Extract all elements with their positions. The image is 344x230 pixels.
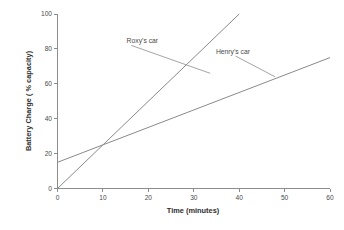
y-tick-label-80: 80 [45, 45, 53, 52]
y-tick-label-40: 40 [45, 115, 53, 122]
y-tick-label-60: 60 [45, 80, 53, 87]
x-axis-tick-labels: 0 10 20 30 40 50 60 [56, 194, 334, 201]
y-tick-label-0: 0 [48, 185, 52, 192]
x-tick-label-10: 10 [99, 194, 107, 201]
x-tick-label-0: 0 [56, 194, 60, 201]
battery-charge-line-chart: 0 20 40 60 80 100 0 10 20 30 40 50 60 [0, 0, 344, 230]
x-tick-label-30: 30 [190, 194, 198, 201]
y-axis-ticks [54, 14, 58, 189]
series-label-henrys-car: Henry's car [216, 48, 251, 56]
series-line-henrys-car [58, 58, 331, 163]
x-tick-label-50: 50 [281, 194, 289, 201]
x-axis-title: Time (minutes) [167, 206, 220, 215]
x-axis-ticks [58, 189, 331, 193]
y-axis-tick-labels: 0 20 40 60 80 100 [41, 10, 52, 192]
leader-line-henrys-car [236, 56, 276, 77]
x-tick-label-20: 20 [145, 194, 153, 201]
series-label-roxys-car: Roxy's car [127, 37, 159, 45]
x-tick-label-60: 60 [326, 194, 334, 201]
y-tick-label-20: 20 [45, 150, 53, 157]
y-tick-label-100: 100 [41, 10, 52, 17]
y-axis-title: Battery Charge ( % capacity) [24, 50, 33, 151]
chart-canvas: 0 20 40 60 80 100 0 10 20 30 40 50 60 [0, 0, 344, 230]
x-tick-label-40: 40 [236, 194, 244, 201]
leader-line-roxys-car [131, 45, 210, 73]
